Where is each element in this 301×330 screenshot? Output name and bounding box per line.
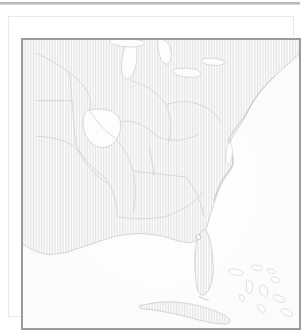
station-marker[interactable]: [196, 235, 201, 240]
map-svg: [22, 39, 300, 329]
map-plot-area[interactable]: [21, 38, 301, 330]
header-divider: [0, 2, 300, 5]
figure-frame: [8, 16, 294, 317]
